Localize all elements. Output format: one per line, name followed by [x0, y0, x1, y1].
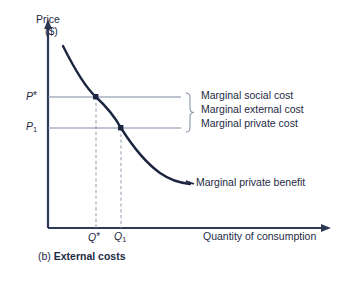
legend-item-marginal-private-cost: Marginal private cost	[201, 118, 298, 130]
x-tick-q-star-base: Q	[88, 231, 96, 243]
x-tick-label-q-star: Q*	[88, 231, 100, 243]
y-tick-p-one-base: P	[26, 120, 33, 132]
x-tick-label-q-one: Q1	[114, 231, 126, 244]
figure-caption: (b) External costs	[38, 251, 126, 263]
y-tick-p-star-mark: *	[33, 90, 37, 101]
figure-caption-letter: (b)	[38, 250, 51, 262]
figure-external-costs: Price ($) Quantity of consumption P* P1 …	[0, 0, 343, 281]
y-axis	[44, 19, 52, 228]
curve-label-marginal-private-benefit: Marginal private benefit	[196, 177, 305, 189]
x-tick-q-one-base: Q	[114, 230, 122, 242]
x-tick-q-one-subscript: 1	[122, 235, 126, 244]
external-cost-brace	[186, 93, 194, 132]
y-tick-p-star-base: P	[26, 90, 33, 102]
y-axis-title: Price	[36, 14, 60, 26]
y-axis-unit-label: ($)	[45, 26, 58, 38]
figure-caption-title: External costs	[54, 250, 126, 262]
x-tick-q-star-mark: *	[96, 231, 100, 242]
x-axis-title: Quantity of consumption	[203, 231, 316, 243]
marginal-private-benefit-curve	[63, 46, 190, 184]
y-tick-p-one-subscript: 1	[33, 125, 37, 134]
marker-equilibrium-private	[118, 125, 123, 130]
legend-item-marginal-external-cost: Marginal external cost	[201, 104, 304, 116]
marker-equilibrium-social	[93, 94, 98, 99]
y-tick-label-p-star: P*	[26, 90, 37, 102]
legend-item-marginal-social-cost: Marginal social cost	[201, 90, 293, 102]
y-tick-label-p-one: P1	[26, 121, 37, 134]
